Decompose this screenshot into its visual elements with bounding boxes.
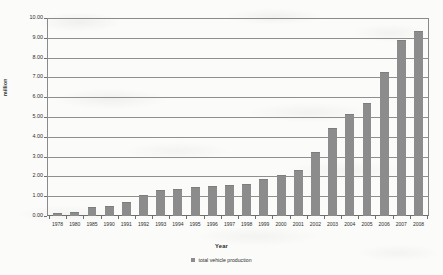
bar-slot <box>169 18 186 216</box>
bar <box>259 179 268 216</box>
legend-label: total vehicle production <box>198 257 251 263</box>
x-axis-tick-labels: 1978198019851990199119921993199419951996… <box>47 222 429 227</box>
x-axis-tick-label: 1985 <box>83 222 100 227</box>
x-axis-tick-label: 1992 <box>135 222 152 227</box>
x-axis-tick-mark <box>290 216 291 219</box>
bar <box>191 187 200 216</box>
bar <box>277 175 286 216</box>
bar <box>88 207 97 216</box>
x-axis-tick-label: 2001 <box>290 222 307 227</box>
x-axis-tick-mark <box>238 216 239 219</box>
bar-slot <box>238 18 255 216</box>
bar-slot <box>255 18 272 216</box>
x-axis-tick-mark <box>341 216 342 219</box>
x-axis-tick-label: 2008 <box>410 222 427 227</box>
x-axis-tick-label: 2004 <box>341 222 358 227</box>
bar-slot <box>307 18 324 216</box>
y-axis-tick-label: 0.00 <box>33 213 44 218</box>
bar <box>242 184 251 216</box>
x-axis-tick-label: 1980 <box>66 222 83 227</box>
x-axis-tick-label: 1996 <box>204 222 221 227</box>
bar-slot <box>118 18 135 216</box>
chart-legend: total vehicle production <box>0 257 443 263</box>
x-axis-tick-mark <box>272 216 273 219</box>
bar <box>122 202 131 216</box>
bar-series <box>47 18 429 216</box>
y-axis-tick-label: 7.00 <box>33 75 44 80</box>
x-axis-tick-label: 1998 <box>238 222 255 227</box>
x-axis-tick-mark <box>410 216 411 219</box>
bar <box>225 185 234 216</box>
x-axis-tick-mark <box>375 216 376 219</box>
x-axis-title: Year <box>0 243 443 249</box>
bar-slot <box>152 18 169 216</box>
x-axis-tick-label: 2006 <box>376 222 393 227</box>
x-axis-tick-label: 2003 <box>324 222 341 227</box>
x-axis-tick-mark <box>169 216 170 219</box>
bar <box>139 195 148 216</box>
x-axis-tick-label: 2005 <box>358 222 375 227</box>
bar <box>156 190 165 216</box>
bar-slot <box>83 18 100 216</box>
x-axis-tick-label: 1991 <box>118 222 135 227</box>
bar-slot <box>290 18 307 216</box>
x-axis-tick-mark <box>118 216 119 219</box>
y-axis-tick-label: 2.00 <box>33 174 44 179</box>
x-axis-tick-mark <box>221 216 222 219</box>
bar-slot <box>324 18 341 216</box>
bar <box>397 40 406 216</box>
x-axis-tick-label: 1995 <box>187 222 204 227</box>
bar <box>363 103 372 216</box>
y-axis-tick-label: 9.00 <box>33 35 44 40</box>
bar-slot <box>410 18 427 216</box>
bar-slot <box>187 18 204 216</box>
x-axis-tick-mark <box>101 216 102 219</box>
bar-slot <box>393 18 410 216</box>
bar-slot <box>358 18 375 216</box>
x-axis-tick-mark <box>152 216 153 219</box>
plot-area: 0.001.002.003.004.005.006.007.008.009.00… <box>47 18 429 216</box>
x-axis-tick-mark <box>66 216 67 219</box>
x-axis-tick-label: 1993 <box>152 222 169 227</box>
y-axis-tick-label: 6.00 <box>33 94 44 99</box>
y-axis-tick-label: 10.00 <box>30 15 44 20</box>
y-axis-tick-label: 5.00 <box>33 114 44 119</box>
x-axis-tick-mark <box>307 216 308 219</box>
bar <box>173 189 182 216</box>
bar-slot <box>204 18 221 216</box>
x-axis-tick-label: 2000 <box>272 222 289 227</box>
bar-slot <box>135 18 152 216</box>
x-axis-tick-label: 2007 <box>393 222 410 227</box>
bar-slot <box>221 18 238 216</box>
bar-chart: million 0.001.002.003.004.005.006.007.00… <box>0 0 443 275</box>
bar <box>345 114 354 216</box>
x-axis-tick-label: 1994 <box>169 222 186 227</box>
bar <box>208 186 217 216</box>
bar-slot <box>101 18 118 216</box>
y-axis-title: million <box>2 79 8 96</box>
x-axis-tick-mark <box>255 216 256 219</box>
bar <box>311 152 320 216</box>
x-axis-tick-mark <box>324 216 325 219</box>
x-axis-tick-mark <box>393 216 394 219</box>
y-axis-tick-label: 8.00 <box>33 55 44 60</box>
x-axis-tick-label: 1997 <box>221 222 238 227</box>
x-axis-tick-mark <box>427 216 428 219</box>
x-axis-tick-mark <box>186 216 187 219</box>
x-axis-tick-label: 1990 <box>101 222 118 227</box>
bar-slot <box>341 18 358 216</box>
y-axis-tick-label: 3.00 <box>33 154 44 159</box>
bar <box>414 31 423 216</box>
x-axis-tick-mark <box>204 216 205 219</box>
x-axis-tick-label: 1999 <box>255 222 272 227</box>
bar-slot <box>272 18 289 216</box>
x-axis-tick-mark <box>83 216 84 219</box>
y-axis-tick-label: 4.00 <box>33 134 44 139</box>
bar <box>380 72 389 216</box>
x-axis-tick-label: 2002 <box>307 222 324 227</box>
bar <box>105 206 114 216</box>
x-axis-tick-mark <box>135 216 136 219</box>
bar <box>328 128 337 216</box>
x-axis-tick-label: 1978 <box>49 222 66 227</box>
bar-slot <box>66 18 83 216</box>
